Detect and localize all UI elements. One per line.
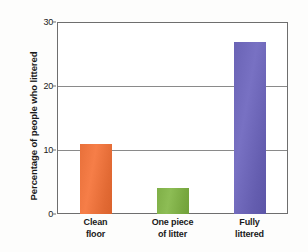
y-tick-mark-10: [52, 150, 56, 151]
x-axis-label-0: Cleanfloor: [57, 217, 134, 240]
y-tick-label-10: 10: [27, 145, 53, 155]
x-axis-label-2: Fullylittered: [211, 217, 288, 240]
gridline-10: [58, 150, 287, 151]
y-tick-label-0: 0: [27, 209, 53, 219]
x-axis-label-line: Clean: [57, 217, 134, 229]
y-tick-label-30: 30: [27, 17, 53, 27]
x-axis-label-line: Fully: [211, 217, 288, 229]
x-axis-label-line: One piece: [134, 217, 211, 229]
x-axis-label-line: of litter: [134, 229, 211, 241]
y-tick-mark-30: [52, 22, 56, 23]
y-tick-mark-20: [52, 86, 56, 87]
x-axis-label-line: floor: [57, 229, 134, 241]
y-axis-ticks: 0102030: [25, 22, 53, 214]
gridline-20: [58, 86, 287, 87]
x-axis-label-line: littered: [211, 229, 288, 241]
x-axis-labels: CleanfloorOne pieceof litterFullylittere…: [57, 217, 288, 252]
y-tick-label-20: 20: [27, 81, 53, 91]
x-axis-label-1: One pieceof litter: [134, 217, 211, 240]
bar-chart: Percentage of people who littered 010203…: [0, 0, 308, 252]
y-tick-mark-0: [52, 214, 56, 215]
plot-area: [57, 22, 288, 214]
